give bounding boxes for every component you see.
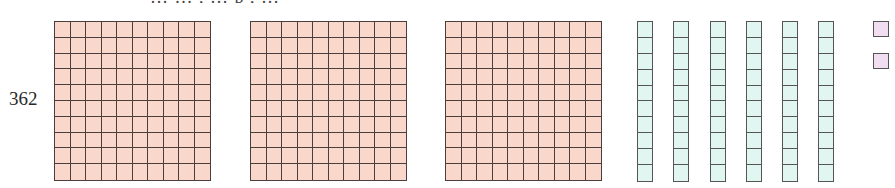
unit-cell [783,86,797,102]
unit-cell [819,70,833,86]
unit-cell [71,117,87,133]
unit-cell [86,164,102,180]
unit-cell [674,54,688,70]
unit-cell [783,101,797,117]
unit-cell [783,54,797,70]
unit-cell [819,117,833,133]
unit-cell [282,148,298,164]
unit-cell [539,69,555,85]
unit-cell [298,69,314,85]
unit-cell [55,133,71,149]
unit-cell [570,38,586,54]
unit-cell [446,54,462,70]
unit-cell [783,149,797,165]
unit-cell [747,165,761,181]
unit-cell [179,133,195,149]
unit-cell [329,101,345,117]
unit-cell [267,117,283,133]
unit-cell [783,22,797,38]
unit-cell [539,38,555,54]
unit-cell [360,164,376,180]
unit-cell [711,165,725,181]
unit-cell [344,69,360,85]
unit-cell [360,148,376,164]
unit-cell [747,117,761,133]
unit-cell [508,164,524,180]
unit-cell [55,101,71,117]
unit-cell [133,148,149,164]
unit-cell [446,148,462,164]
unit-cell [329,133,345,149]
unit-cell [360,38,376,54]
unit-cell [391,164,407,180]
unit-cell [360,85,376,101]
unit-cell [117,133,133,149]
unit-cell [477,69,493,85]
unit-cell [570,54,586,70]
unit-cell [71,38,87,54]
unit-cell [493,69,509,85]
unit-cell [539,54,555,70]
unit-cell [674,133,688,149]
unit-cell [477,101,493,117]
unit-cell [102,164,118,180]
unit-cell [819,133,833,149]
unit-cell [783,133,797,149]
unit-cell [747,54,761,70]
unit-cell [298,164,314,180]
unit-cell [570,101,586,117]
unit-cell [360,101,376,117]
unit-cell [711,22,725,38]
unit-cell [477,117,493,133]
unit-cell [375,85,391,101]
unit-cell [446,69,462,85]
unit-cell [360,69,376,85]
unit-cell [179,54,195,70]
unit-cell [329,69,345,85]
unit-cell [55,22,71,38]
unit-cell [298,101,314,117]
unit-cell [462,148,478,164]
cropped-header-text: … … , … p , … [0,0,895,3]
unit-cell [391,101,407,117]
unit-cell [179,85,195,101]
unit-cell [524,38,540,54]
unit-cell [251,164,267,180]
unit-cell [446,38,462,54]
unit-cell [251,133,267,149]
unit-cell [117,38,133,54]
unit-cell [298,22,314,38]
unit-cell [493,101,509,117]
unit-cell [179,22,195,38]
unit-cell [55,38,71,54]
unit-cell [329,85,345,101]
unit-cell [282,117,298,133]
unit-cell [674,22,688,38]
unit-cell [195,38,211,54]
unit-cell [195,69,211,85]
unit-cell [164,101,180,117]
unit-cell [251,38,267,54]
unit-cell [148,38,164,54]
unit-cell [539,85,555,101]
hundred-block-1 [54,21,211,181]
unit-cell [267,38,283,54]
unit-cell [570,133,586,149]
unit-cell [586,164,602,180]
unit-cell [344,54,360,70]
unit-cell [493,22,509,38]
unit-cell [493,85,509,101]
unit-cell [674,149,688,165]
unit-cell [195,101,211,117]
unit-cell [313,69,329,85]
unit-cell [819,149,833,165]
unit-cell [586,22,602,38]
unit-cell [375,54,391,70]
unit-cell [148,133,164,149]
unit-cell [86,148,102,164]
unit-cell [267,69,283,85]
unit-cell [282,101,298,117]
unit-cell [493,117,509,133]
unit-cell [164,54,180,70]
unit-cell [195,117,211,133]
